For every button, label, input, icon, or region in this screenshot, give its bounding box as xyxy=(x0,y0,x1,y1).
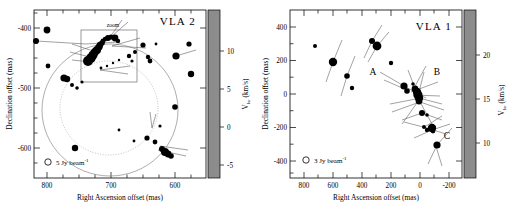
vla2-colorbar-ticks xyxy=(220,51,224,165)
vla1-maser-spots xyxy=(313,38,441,149)
vla1-cbtick-20: 20 xyxy=(483,52,491,60)
vla2-ytick-m500: -500 xyxy=(18,85,32,93)
vla2-y-ticks xyxy=(34,13,206,163)
vla1-panel-title: VLA 1 xyxy=(416,20,452,32)
vla2-cbtick-5: 5 xyxy=(227,86,231,94)
vla1-cluster-label-a: A xyxy=(370,67,377,77)
vla2-outer-arc xyxy=(42,44,178,176)
vla2-beam-circle xyxy=(45,159,51,165)
vla2-xtick-700: 700 xyxy=(106,182,117,190)
vla1-xtick-200: 200 xyxy=(386,182,397,190)
panel-vla1: 800 600 400 200 0 -200 xyxy=(256,0,512,216)
vla2-cbtick-m5: -5 xyxy=(227,162,233,170)
vla1-colorbar xyxy=(464,10,476,178)
vla1-x-axis-title: Right Ascension offset (mas) xyxy=(333,193,419,202)
vla2-ytick-m600: -600 xyxy=(18,145,32,153)
vla2-xtick-600: 600 xyxy=(170,182,181,190)
vla2-zoom-label: zoom xyxy=(107,22,120,28)
vla1-y-axis-title: Declination offset (mas) xyxy=(261,58,270,130)
vla2-x-axis-title: Right Ascension offset (mas) xyxy=(77,193,163,202)
vla2-panel-title: VLA 2 xyxy=(160,15,196,27)
vla2-plot: 800 700 600 -400 -500 xyxy=(0,0,256,216)
vla1-x-ticks xyxy=(304,10,449,178)
vla2-cbtick-10: 10 xyxy=(227,48,235,56)
vla2-y-axis-title: Declination offset (mas) xyxy=(5,58,14,130)
vla1-axes-frame xyxy=(290,10,462,178)
vla1-beam-circle xyxy=(303,157,309,163)
vla1-cbtick-15: 15 xyxy=(483,96,491,104)
vla1-xtick-400: 400 xyxy=(357,182,368,190)
vla2-inner-arc xyxy=(60,61,158,155)
vla1-colorbar-title: Vlsr (km/s) xyxy=(498,84,507,115)
vla1-plot: 800 600 400 200 0 -200 xyxy=(256,0,512,216)
vla2-ytick-m400: -400 xyxy=(18,25,32,33)
vla2-xtick-800: 800 xyxy=(42,182,53,190)
vla1-ytick-m200: -200 xyxy=(274,124,288,132)
vla2-beam-label: 5 Jy beam-1 xyxy=(56,158,89,167)
vla1-ytick-200: 200 xyxy=(276,57,287,65)
vla1-ytick-0: 0 xyxy=(283,91,287,99)
vla2-maser-spots xyxy=(33,27,194,159)
vla1-colorbar-ticks xyxy=(476,55,480,143)
vla1-xtick-0: 0 xyxy=(418,182,422,190)
vla1-xtick-m200: -200 xyxy=(442,182,456,190)
vla1-beam-label: 3 Jy beam-1 xyxy=(314,156,347,165)
panel-vla2: 800 700 600 -400 -500 xyxy=(0,0,256,216)
vla1-xtick-800: 800 xyxy=(299,182,310,190)
vla1-cluster-label-b: B xyxy=(434,67,440,77)
vla1-xtick-600: 600 xyxy=(328,182,339,190)
vla2-colorbar xyxy=(208,10,220,178)
vla2-axes-frame xyxy=(34,10,206,178)
vla1-cbtick-10: 10 xyxy=(483,140,491,148)
maser-proper-motion-figure: 800 700 600 -400 -500 xyxy=(0,0,512,216)
vla1-ytick-400: 400 xyxy=(276,24,287,32)
vla1-ytick-m400: -400 xyxy=(274,158,288,166)
vla1-proper-motion-vectors xyxy=(326,25,452,166)
vla2-cbtick-0: 0 xyxy=(227,124,231,132)
vla2-colorbar-title: Vlsr (km/s) xyxy=(242,78,251,109)
